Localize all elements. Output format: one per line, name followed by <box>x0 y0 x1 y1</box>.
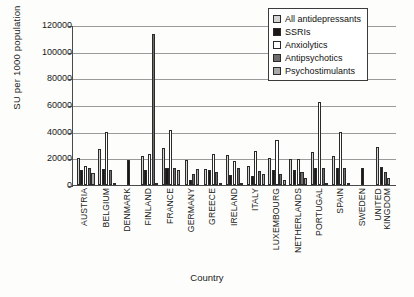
legend-label: Antipsychotics <box>285 53 343 63</box>
bar <box>376 147 379 185</box>
bar <box>141 156 144 185</box>
bar <box>148 154 151 185</box>
x-axis-label-cell: NETHERLANDS <box>287 188 308 276</box>
x-axis-tick-label: GREECE <box>208 188 217 225</box>
bar <box>196 169 199 185</box>
bar <box>272 170 275 185</box>
bar <box>189 180 192 185</box>
bar <box>387 178 390 185</box>
y-axis-tick-label: 0 <box>26 180 72 190</box>
bar <box>318 102 321 185</box>
bar-group <box>203 26 224 185</box>
bar <box>91 173 94 185</box>
x-axis-label-cell: SWEDEN <box>351 188 372 276</box>
legend-swatch <box>273 28 281 36</box>
x-axis-tick-label: IRELAND <box>230 188 239 226</box>
x-axis-label-cell: UNITEDKINGDOM <box>373 188 394 276</box>
y-axis-tick-label: 20000 <box>26 153 72 163</box>
x-axis-label-cell: GREECE <box>202 188 223 276</box>
y-axis-tick-label: 80000 <box>26 73 72 83</box>
legend-swatch <box>273 54 281 62</box>
x-axis-tick-label: DENMARK <box>123 188 132 232</box>
bar <box>314 168 317 185</box>
bar <box>304 178 307 185</box>
x-axis-tick-label: FINLAND <box>144 188 153 225</box>
bar-chart-figure: SU per 1000 population 12000010000080000… <box>0 0 414 297</box>
y-axis-tick-labels: 120000100000800006000040000200000 <box>26 26 72 186</box>
x-axis-tick-label: NETHERLANDS <box>294 188 303 253</box>
bar <box>226 155 229 185</box>
bar <box>289 159 292 185</box>
x-axis-tick-label: GERMANY <box>187 188 196 232</box>
bar <box>325 183 328 185</box>
x-axis-label-cell: PORTUGAL <box>309 188 330 276</box>
bar-group <box>224 26 245 185</box>
legend-swatch <box>273 41 281 49</box>
bar <box>343 168 346 185</box>
legend-label: SSRIs <box>285 27 311 37</box>
bar <box>219 183 222 185</box>
bar <box>275 140 278 185</box>
bar <box>254 151 257 185</box>
bar <box>162 148 165 185</box>
x-axis-label-cell: LUXEMBOURG <box>266 188 287 276</box>
y-axis-tick-label: 40000 <box>26 127 72 137</box>
bar <box>169 130 172 185</box>
bar-group <box>245 26 266 185</box>
bar <box>165 168 168 185</box>
x-axis-label-cell: DENMARK <box>117 188 138 276</box>
bar-group <box>75 26 96 185</box>
bar <box>262 174 265 185</box>
bar <box>300 172 303 185</box>
bar <box>215 172 218 185</box>
x-axis-tick-label: AUSTRIA <box>80 188 89 226</box>
bar <box>332 156 335 185</box>
legend-item: Psychostimulants <box>273 64 361 77</box>
bar <box>185 160 188 185</box>
bar <box>311 152 314 185</box>
legend-label: Anxiolytics <box>285 40 328 50</box>
x-axis-tick-labels: AUSTRIABELGIUMDENMARKFINLANDFRANCEGERMAN… <box>72 188 396 276</box>
bar <box>173 168 176 185</box>
bar <box>88 168 91 185</box>
bar <box>297 159 300 185</box>
bar <box>293 170 296 185</box>
x-axis-tick-label: SWEDEN <box>358 188 367 226</box>
bar <box>336 168 339 185</box>
bar <box>113 183 116 185</box>
x-axis-label-cell: BELGIUM <box>95 188 116 276</box>
bar <box>208 170 211 185</box>
bar <box>251 176 254 185</box>
y-axis-tick-label: 100000 <box>26 47 72 57</box>
bar <box>339 132 342 185</box>
y-axis-tick-label: 60000 <box>26 100 72 110</box>
bar <box>177 170 180 185</box>
x-axis-label-cell: FINLAND <box>138 188 159 276</box>
bar <box>233 161 236 185</box>
bar <box>240 183 243 185</box>
bar <box>155 183 158 185</box>
bar-group <box>160 26 181 185</box>
bar <box>380 167 383 185</box>
bar-group <box>139 26 160 185</box>
y-axis-title: SU per 1000 population <box>11 0 22 128</box>
x-axis-label-cell: FRANCE <box>159 188 180 276</box>
y-axis-tick <box>68 186 73 187</box>
x-axis-label-cell: SPAIN <box>330 188 351 276</box>
bar <box>279 174 282 185</box>
bar <box>204 169 207 185</box>
x-axis-label-cell: IRELAND <box>223 188 244 276</box>
bar-group <box>373 26 394 185</box>
bar <box>192 174 195 185</box>
x-axis-label-cell: AUSTRIA <box>74 188 95 276</box>
x-axis-label-cell: GERMANY <box>181 188 202 276</box>
bar <box>77 158 80 185</box>
legend-item: Antipsychotics <box>273 51 361 64</box>
bar <box>229 175 232 185</box>
bar <box>109 170 112 185</box>
y-axis-tick-label: 120000 <box>26 20 72 30</box>
bar-group <box>181 26 202 185</box>
bar-group <box>118 26 139 185</box>
x-axis-tick-label: BELGIUM <box>102 188 111 227</box>
legend-swatch <box>273 15 281 23</box>
